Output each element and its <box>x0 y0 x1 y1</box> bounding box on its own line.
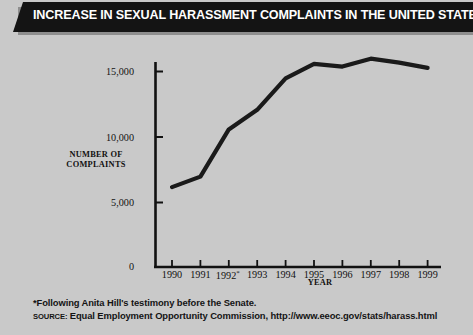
y-tick-label-0: 0 <box>88 261 134 272</box>
y-tick-marks <box>156 72 163 203</box>
title-banner: INCREASE IN SEXUAL HARASSMENT COMPLAINTS… <box>0 0 473 40</box>
page-title: INCREASE IN SEXUAL HARASSMENT COMPLAINTS… <box>33 0 467 30</box>
data-series-line <box>172 59 428 187</box>
footnote-note: *Following Anita Hill's testimony before… <box>33 297 463 310</box>
y-tick-label-10000: 10,000 <box>88 132 134 143</box>
footnotes-block: *Following Anita Hill's testimony before… <box>33 297 463 323</box>
footnote-source: SOURCE: Equal Employment Opportunity Com… <box>33 310 463 324</box>
source-keyword: SOURCE: <box>33 312 67 321</box>
y-axis-title-line2: COMPLAINTS <box>66 160 125 169</box>
y-tick-label-15000: 15,000 <box>88 66 134 77</box>
x-tick-label-1992-text: 1992 <box>216 270 236 281</box>
chart-area: 15,000 10,000 5,000 0 NUMBER OF COMPLAIN… <box>0 40 473 285</box>
y-axis-title: NUMBER OF COMPLAINTS <box>56 150 136 169</box>
y-axis-title-line1: NUMBER OF <box>69 150 122 159</box>
infographic-root: INCREASE IN SEXUAL HARASSMENT COMPLAINTS… <box>0 0 473 335</box>
x-tick-label-1999: 1999 <box>408 269 448 280</box>
y-tick-label-5000: 5,000 <box>88 197 134 208</box>
x-axis-title: YEAR <box>300 278 340 288</box>
source-text: Equal Employment Opportunity Commission,… <box>67 310 437 321</box>
